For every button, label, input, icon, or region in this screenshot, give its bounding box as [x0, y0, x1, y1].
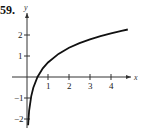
chart: xy1234−2−112	[0, 0, 142, 129]
x-tick-label: 2	[67, 81, 72, 91]
y-tick-label: 1	[18, 51, 23, 61]
x-axis-label: x	[133, 73, 138, 82]
y-tick-label: 2	[18, 30, 23, 40]
y-axis-arrow-icon	[25, 13, 29, 18]
y-tick-label: −1	[14, 93, 24, 103]
axes: xy1234−2−112	[12, 3, 138, 128]
y-tick-label: −2	[14, 114, 24, 124]
x-tick-label: 4	[109, 81, 114, 91]
x-tick-label: 3	[88, 81, 93, 91]
y-axis-label: y	[23, 3, 28, 12]
x-tick-label: 1	[46, 81, 51, 91]
x-axis-arrow-icon	[126, 75, 131, 79]
